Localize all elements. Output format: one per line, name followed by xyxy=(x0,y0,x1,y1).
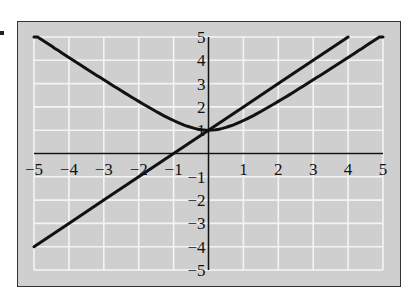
x-tick-label: −4 xyxy=(60,160,79,179)
y-tick-label: −4 xyxy=(187,238,206,257)
y-tick-label: −1 xyxy=(187,168,205,187)
x-tick-label: 5 xyxy=(379,160,388,179)
y-tick-label: 4 xyxy=(197,51,206,70)
x-tick-label: 3 xyxy=(309,160,318,179)
x-tick-label: 2 xyxy=(274,160,283,179)
x-tick-label: −5 xyxy=(25,160,43,179)
y-tick-label: −2 xyxy=(187,191,205,210)
y-tick-label: 2 xyxy=(197,98,206,117)
x-tick-label: 4 xyxy=(344,160,353,179)
x-tick-label: −1 xyxy=(165,160,183,179)
y-tick-label: 5 xyxy=(197,28,206,47)
x-tick-label: −3 xyxy=(95,160,113,179)
y-tick-label: −3 xyxy=(187,214,205,233)
y-tick-label: −5 xyxy=(187,261,205,280)
y-tick-label: 3 xyxy=(197,75,206,94)
x-tick-label: 1 xyxy=(239,160,248,179)
